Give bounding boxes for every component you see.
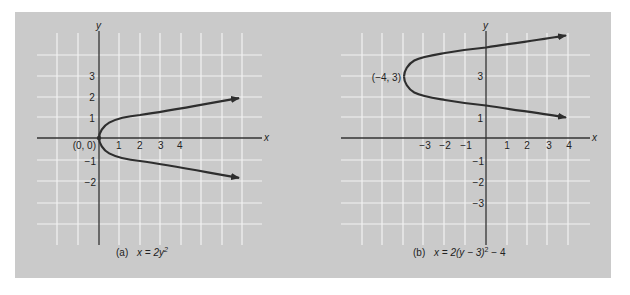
graph-b-x-axis-label: x — [591, 132, 598, 143]
graph-b-ytick: 3 — [477, 71, 483, 82]
graph-a-vertex-point — [97, 136, 101, 140]
figure-svg: x y 1 2 3 4 3 2 1 −1 −2 (0, 0) (a) x = 2… — [0, 0, 630, 295]
graph-a-ticks: 1 2 3 4 3 2 1 −1 −2 (0, 0) — [73, 71, 183, 188]
graph-a-y-axis-label: y — [95, 20, 102, 31]
graph-b-grid — [341, 33, 590, 245]
graph-a-ytick: −1 — [85, 156, 97, 167]
graph-a-xtick: 3 — [158, 140, 164, 151]
graph-a-origin-label: (0, 0) — [73, 140, 96, 151]
graph-a-ytick: 2 — [89, 92, 95, 103]
graph-b-caption: (b) x = 2(y − 3)2 − 4 — [413, 246, 506, 258]
graph-b-vertex-label: (−4, 3) — [372, 72, 401, 83]
graph-a-ytick: 1 — [89, 113, 95, 124]
graph-b-ytick: −1 — [473, 156, 485, 167]
graph-a-axes: x y — [37, 20, 270, 245]
graph-a-xtick: 4 — [177, 140, 183, 151]
graph-a-ytick: −2 — [85, 177, 97, 188]
graph-b-y-axis-label: y — [482, 20, 489, 31]
graph-a-xtick: 1 — [116, 140, 122, 151]
graph-b-ytick: 1 — [477, 113, 483, 124]
graph-a-caption: (a) x = 2y2 — [116, 246, 168, 258]
graph-b-axes: x y — [341, 20, 598, 245]
graph-a-ytick: 3 — [89, 71, 95, 82]
graph-b-xtick: 1 — [504, 140, 510, 151]
graph-a-x-axis-label: x — [263, 132, 270, 143]
graph-b-ytick: −3 — [473, 198, 485, 209]
graph-b-xtick: −3 — [419, 140, 431, 151]
graph-b-xtick: 3 — [546, 140, 552, 151]
graph-b-xtick: 4 — [566, 140, 572, 151]
graph-a: x y 1 2 3 4 3 2 1 −1 −2 (0, 0) (a) x = 2… — [37, 20, 270, 258]
graph-a-xtick: 2 — [137, 140, 143, 151]
graph-b: x y −3 −2 −1 1 2 3 4 3 1 −1 −2 −3 (−4, 3… — [341, 20, 598, 258]
graph-b-xtick: 2 — [524, 140, 530, 151]
graph-b-ytick: −2 — [473, 177, 485, 188]
graph-b-xtick: −1 — [460, 140, 472, 151]
graph-b-ticks: −3 −2 −1 1 2 3 4 3 1 −1 −2 −3 (−4, 3) — [372, 71, 572, 209]
graph-b-xtick: −2 — [439, 140, 451, 151]
graph-a-grid — [37, 33, 262, 245]
